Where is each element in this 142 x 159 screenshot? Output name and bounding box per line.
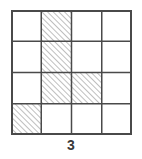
grid-cell-shaded <box>41 73 71 104</box>
grid-svg <box>11 10 132 135</box>
grid-cell-shaded <box>41 41 71 72</box>
grid-cell-shaded <box>11 104 41 135</box>
figure-caption: 3 <box>0 137 142 153</box>
grid-container <box>11 10 132 135</box>
grid-cell-shaded <box>72 73 102 104</box>
figure-container: 3 <box>0 0 142 159</box>
grid-cell-shaded <box>41 10 71 41</box>
